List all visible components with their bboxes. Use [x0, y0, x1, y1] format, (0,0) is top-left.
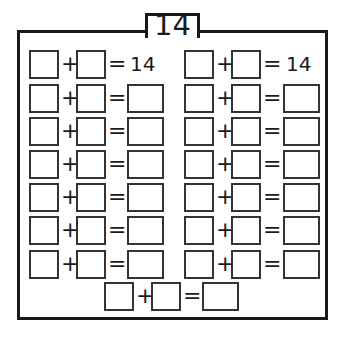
right-column-addend-1-box[interactable] — [184, 150, 214, 179]
left-column-addend-1-box[interactable] — [29, 183, 59, 212]
right-column-addend-1-box[interactable] — [184, 84, 214, 113]
plus-sign: + — [216, 84, 230, 112]
sum-value: 14 — [130, 50, 155, 78]
sum-value: 14 — [286, 50, 311, 78]
right-column-sum-box[interactable] — [283, 84, 320, 113]
equals-sign: = — [263, 50, 279, 78]
plus-sign: + — [61, 250, 75, 278]
equals-sign: = — [263, 216, 279, 244]
left-column-addend-1-box[interactable] — [29, 150, 59, 179]
right-column-addend-1-box[interactable] — [184, 183, 214, 212]
equals-sign: = — [263, 150, 279, 178]
right-column-addend-2-box[interactable] — [231, 150, 261, 179]
left-column-addend-2-box[interactable] — [76, 117, 106, 146]
left-column-addend-1-box[interactable] — [29, 216, 59, 245]
equals-sign: = — [108, 216, 124, 244]
right-column-addend-2-box[interactable] — [231, 84, 261, 113]
equals-sign: = — [263, 84, 279, 112]
left-column-addend-2-box[interactable] — [76, 216, 106, 245]
equals-sign: = — [263, 183, 279, 211]
right-column-addend-2-box[interactable] — [231, 50, 261, 79]
right-column-addend-1-box[interactable] — [184, 50, 214, 79]
left-column-addend-2-box[interactable] — [76, 50, 106, 79]
left-column-sum-box[interactable] — [127, 117, 164, 146]
plus-sign: + — [61, 183, 75, 211]
equals-sign: = — [108, 84, 124, 112]
plus-sign: + — [61, 216, 75, 244]
left-column-sum-box[interactable] — [127, 250, 164, 279]
right-column-addend-2-box[interactable] — [231, 250, 261, 279]
equals-sign: = — [263, 250, 279, 278]
plus-sign: + — [216, 250, 230, 278]
plus-sign: + — [61, 50, 75, 78]
plus-sign: + — [216, 150, 230, 178]
left-column-sum-box[interactable] — [127, 84, 164, 113]
bottom-addend-2-box[interactable] — [151, 282, 181, 311]
equals-sign: = — [108, 250, 124, 278]
right-column-sum-box[interactable] — [283, 183, 320, 212]
equals-sign: = — [183, 282, 199, 310]
left-column-addend-1-box[interactable] — [29, 117, 59, 146]
left-column-sum-box[interactable] — [127, 183, 164, 212]
left-column-sum-box[interactable] — [127, 150, 164, 179]
worksheet-title: 14 — [145, 10, 200, 40]
plus-sign: + — [216, 216, 230, 244]
right-column-sum-box[interactable] — [283, 250, 320, 279]
left-column-sum-box[interactable] — [127, 216, 164, 245]
plus-sign: + — [61, 117, 75, 145]
left-column-addend-1-box[interactable] — [29, 250, 59, 279]
right-column-addend-1-box[interactable] — [184, 250, 214, 279]
plus-sign: + — [216, 117, 230, 145]
right-column-addend-1-box[interactable] — [184, 117, 214, 146]
equals-sign: = — [108, 150, 124, 178]
bottom-addend-1-box[interactable] — [104, 282, 134, 311]
plus-sign: + — [216, 183, 230, 211]
bottom-sum-box[interactable] — [202, 282, 239, 311]
plus-sign: + — [61, 84, 75, 112]
right-column-addend-2-box[interactable] — [231, 216, 261, 245]
equals-sign: = — [108, 183, 124, 211]
equals-sign: = — [263, 117, 279, 145]
right-column-sum-box[interactable] — [283, 117, 320, 146]
plus-sign: + — [216, 50, 230, 78]
left-column-addend-1-box[interactable] — [29, 50, 59, 79]
right-column-addend-2-box[interactable] — [231, 117, 261, 146]
left-column-addend-2-box[interactable] — [76, 183, 106, 212]
plus-sign: + — [61, 150, 75, 178]
right-column-addend-1-box[interactable] — [184, 216, 214, 245]
left-column-addend-1-box[interactable] — [29, 84, 59, 113]
left-column-addend-2-box[interactable] — [76, 250, 106, 279]
right-column-addend-2-box[interactable] — [231, 183, 261, 212]
equals-sign: = — [108, 50, 124, 78]
plus-sign: + — [136, 282, 150, 310]
equals-sign: = — [108, 117, 124, 145]
left-column-addend-2-box[interactable] — [76, 84, 106, 113]
left-column-addend-2-box[interactable] — [76, 150, 106, 179]
right-column-sum-box[interactable] — [283, 216, 320, 245]
right-column-sum-box[interactable] — [283, 150, 320, 179]
